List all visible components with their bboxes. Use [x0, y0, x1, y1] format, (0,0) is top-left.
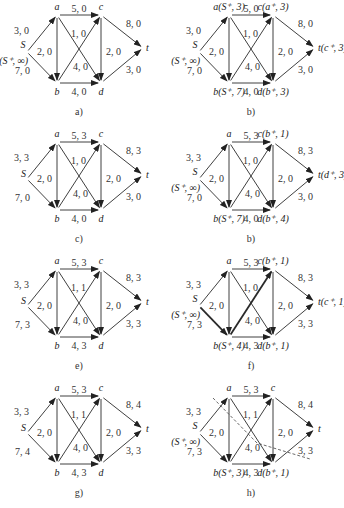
node-label-s2: (S⁺, ∞) — [171, 182, 200, 194]
edge-label-a-d: 4, 0 — [245, 61, 260, 72]
edge-label-a-d: 4, 0 — [73, 442, 88, 453]
edge-label-a-b: 2, 0 — [37, 427, 52, 438]
edge-label-S-b: 7, 3 — [187, 446, 202, 457]
edge-label-c-t: 8, 4 — [298, 399, 313, 410]
edge-label-S-b: 7, 0 — [187, 65, 202, 76]
node-label-s2: (S⁺, ∞) — [171, 309, 200, 321]
edge-label-b-c: 1, 1 — [71, 409, 86, 420]
edge-label-b-c: 1, 0 — [243, 28, 258, 39]
node-label-c: c(a⁺, 3) — [257, 1, 289, 13]
node-label-a: a — [227, 255, 232, 266]
node-label-s2: (S⁺, ∞) — [171, 55, 200, 67]
node-label-c: c — [99, 255, 104, 266]
node-label-b: b(S⁺, 7) — [213, 213, 245, 225]
edge-label-c-d: 2, 0 — [278, 46, 293, 57]
node-label-b: b(S⁺, 3) — [213, 467, 245, 479]
edge-label-c-t: 8, 3 — [126, 145, 141, 156]
edge-label-c-t: 8, 4 — [126, 399, 141, 410]
edge-label-a-b: 2, 0 — [209, 300, 224, 311]
edge-label-d-t: 3, 0 — [298, 191, 313, 202]
edge-label-a-b: 2, 0 — [37, 46, 52, 57]
edge-S-b — [200, 180, 227, 207]
panel-e: 3, 37, 32, 05, 34, 01, 14, 32, 08, 33, 3… — [0, 254, 172, 381]
panel-caption: b) — [247, 106, 255, 118]
panel-a: 3, 07, 02, 05, 04, 01, 04, 02, 08, 03, 0… — [0, 0, 172, 127]
edge-label-a-c: 5, 3 — [72, 130, 87, 141]
edge-label-a-b: 2, 0 — [209, 173, 224, 184]
node-label-a: a — [55, 1, 60, 12]
node-label-c: c(b⁺, 1) — [257, 255, 289, 267]
edge-S-b — [28, 307, 55, 334]
node-label-b: b(S⁺, 7) — [213, 86, 245, 98]
node-label-a: a(S⁺, 3) — [213, 1, 245, 13]
node-label-s: S — [21, 39, 26, 50]
node-label-b: b — [55, 467, 60, 478]
edge-S-b — [28, 180, 55, 207]
edge-label-d-t: 3, 0 — [126, 191, 141, 202]
panel-f: 3, 37, 32, 05, 34, 01, 04, 32, 08, 33, 3… — [172, 254, 344, 381]
edge-label-S-a: 3, 3 — [186, 279, 201, 290]
panel-c: 3, 37, 02, 05, 34, 01, 04, 02, 08, 33, 0… — [0, 127, 172, 254]
node-label-d: d — [99, 340, 105, 351]
edge-label-S-a: 3, 3 — [14, 406, 29, 417]
node-label-t: t(d⁺, 3) — [318, 169, 344, 181]
edge-label-a-c: 5, 3 — [244, 130, 259, 141]
edge-label-c-d: 2, 0 — [278, 427, 293, 438]
node-label-a: a — [55, 382, 60, 393]
edge-S-b — [200, 53, 227, 80]
node-label-s: S — [193, 166, 198, 177]
edge-label-b-d: 4, 0 — [72, 86, 87, 97]
node-label-s: S — [21, 168, 26, 179]
node-label-d: d — [99, 213, 105, 224]
edge-label-c-t: 8, 3 — [298, 272, 313, 283]
node-label-s: S — [21, 422, 26, 433]
node-label-s2: (S⁺, ∞) — [0, 55, 29, 67]
node-label-a: a — [227, 382, 232, 393]
node-label-a: a — [55, 255, 60, 266]
node-label-s: S — [193, 293, 198, 304]
edge-label-S-a: 3, 3 — [14, 152, 29, 163]
node-label-d: d(b⁺, 3) — [257, 86, 289, 98]
edge-S-b — [200, 434, 227, 461]
edge-label-b-d: 4, 3 — [72, 340, 87, 351]
edge-label-d-t: 3, 3 — [298, 445, 313, 456]
edge-label-c-t: 8, 3 — [126, 272, 141, 283]
panel-caption: a) — [75, 106, 83, 118]
edge-label-c-d: 2, 0 — [106, 427, 121, 438]
edge-label-b-c: 1, 0 — [71, 155, 86, 166]
node-label-s: S — [193, 420, 198, 431]
node-label-a: a — [55, 128, 60, 139]
edge-label-a-c: 5, 3 — [72, 257, 87, 268]
node-label-d: d(b⁺, 4) — [257, 213, 289, 225]
edge-label-d-t: 3, 3 — [298, 318, 313, 329]
panel-caption: g) — [75, 487, 83, 499]
edge-label-a-b: 2, 0 — [209, 427, 224, 438]
panel-h: 3, 37, 32, 05, 34, 01, 14, 32, 08, 43, 3… — [172, 381, 344, 508]
panel-caption: b) — [247, 233, 255, 245]
edge-label-a-b: 2, 0 — [37, 173, 52, 184]
edge-label-b-c: 1, 1 — [243, 409, 258, 420]
node-label-s2: (S⁺, ∞) — [171, 436, 200, 448]
node-label-b: b — [55, 213, 60, 224]
edge-label-d-t: 3, 0 — [126, 64, 141, 75]
node-label-b: b(S⁺, 4) — [213, 340, 245, 352]
edge-label-a-c: 5, 3 — [72, 384, 87, 395]
node-label-d: d(b⁺, 1) — [257, 340, 289, 352]
edge-label-d-t: 3, 3 — [126, 318, 141, 329]
edge-label-c-d: 2, 0 — [278, 300, 293, 311]
node-label-c: c — [271, 382, 276, 393]
node-label-a: a — [227, 128, 232, 139]
node-label-d: d — [99, 467, 105, 478]
node-label-s: S — [193, 39, 198, 50]
node-label-t: t — [146, 169, 149, 180]
edge-label-a-d: 4, 0 — [245, 188, 260, 199]
edge-label-S-b: 7, 3 — [187, 319, 202, 330]
edge-label-b-d: 4, 3 — [72, 467, 87, 478]
node-label-c: c(b⁺, 1) — [257, 128, 289, 140]
edge-label-S-a: 3, 3 — [186, 152, 201, 163]
edge-label-S-b: 7, 0 — [15, 192, 30, 203]
edge-label-S-b: 7, 3 — [15, 319, 30, 330]
node-label-b: b — [55, 86, 60, 97]
edge-label-c-t: 8, 0 — [126, 18, 141, 29]
node-label-t: t — [146, 42, 149, 53]
